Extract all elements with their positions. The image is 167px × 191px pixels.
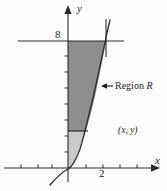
y-tick-label-8: 8	[55, 29, 61, 40]
x-tick-label-2: 2	[99, 168, 105, 179]
region-annotation: Region R	[115, 81, 153, 91]
region-annotation-text: Region	[115, 80, 146, 91]
x-axis-label: x	[155, 155, 160, 166]
y-axis-label: y	[77, 3, 82, 14]
region-figure: 8 2 y x Region R (x, y)	[0, 0, 167, 191]
region-leader-arrow	[101, 83, 113, 89]
region-annotation-variable: R	[146, 80, 152, 91]
sample-point-label: (x, y)	[118, 126, 138, 136]
figure-canvas	[0, 0, 167, 191]
x-axis	[4, 164, 160, 171]
